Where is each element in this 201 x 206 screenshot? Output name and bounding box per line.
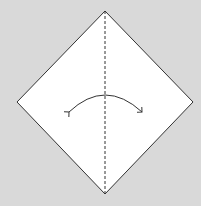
origami-diagram: [0, 0, 201, 206]
